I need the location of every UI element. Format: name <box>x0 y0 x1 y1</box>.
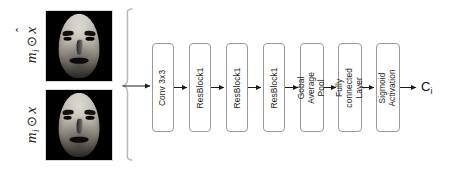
mouth <box>69 58 88 64</box>
eye-right <box>86 116 94 120</box>
input-label-bottom-operand: x <box>23 106 39 113</box>
eye-left <box>64 37 72 41</box>
pipeline-block-resblock1c[interactable]: ResBlock1 <box>263 43 285 132</box>
output-label: Ci <box>421 79 432 96</box>
input-label-bottom: mi⊙x <box>23 90 41 160</box>
input-grouping-brace <box>123 9 133 160</box>
pipeline-block-label: Fully connected Layer <box>335 68 365 108</box>
pipeline-block-resblock1b[interactable]: ResBlock1 <box>226 43 248 132</box>
hadamard-product-icon: ⊙ <box>25 33 39 49</box>
input-label-bottom-mask: mi <box>23 129 39 143</box>
input-label-top-mask: mi <box>23 49 39 63</box>
face-region <box>59 93 100 157</box>
pipeline-block-label: Gobal Average Pool <box>297 72 327 104</box>
hadamard-product-icon: ⊙ <box>25 113 39 129</box>
input-label-top-operand: ̂x <box>23 26 40 33</box>
pipeline-block-gap[interactable]: Gobal Average Pool <box>300 43 324 132</box>
pipeline-block-sigmoid[interactable]: Sigmoid Activation <box>376 43 400 132</box>
nose <box>77 40 82 55</box>
pipeline-block-label: ResBlock1 <box>269 67 279 108</box>
pipeline-block-label: Sigmoid Activation <box>378 69 398 106</box>
diagram-canvas: mi⊙̂x mi⊙x Conv 3x3 ResBlock1 <box>0 0 456 172</box>
eye-right <box>86 37 94 41</box>
output-label-base: C <box>421 79 430 94</box>
pipeline-block-conv3x3[interactable]: Conv 3x3 <box>152 43 174 132</box>
input-label-top: mi⊙̂x <box>23 10 41 80</box>
face-region <box>59 14 100 78</box>
mouth <box>69 137 88 143</box>
pipeline-block-label: ResBlock1 <box>195 67 205 108</box>
pipeline-block-label: Conv 3x3 <box>158 69 168 105</box>
output-label-subscript: i <box>430 86 432 96</box>
pipeline-block-resblock1a[interactable]: ResBlock1 <box>189 43 211 132</box>
input-image-bottom <box>45 89 113 161</box>
eye-left <box>64 116 72 120</box>
pipeline-block-fc[interactable]: Fully connected Layer <box>338 43 362 132</box>
input-image-top <box>45 10 113 82</box>
pipeline-block-label: ResBlock1 <box>232 67 242 108</box>
nose <box>77 119 82 134</box>
